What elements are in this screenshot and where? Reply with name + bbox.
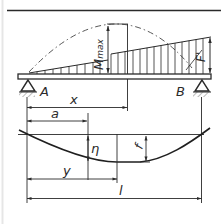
- support-a-label: A: [39, 84, 49, 99]
- mmax-label: Mmax: [91, 38, 106, 70]
- support-a: [19, 80, 37, 97]
- support-b-label: B: [176, 84, 185, 99]
- eta-label: η: [91, 141, 99, 156]
- f-label: f: [132, 141, 147, 151]
- beam-diagram: Mmax F' A B x a: [0, 0, 221, 224]
- x-label: x: [69, 92, 78, 107]
- moment-parabola: [29, 24, 192, 72]
- deflection-curve: [19, 128, 210, 162]
- y-label: y: [62, 163, 71, 178]
- force-label: F': [194, 52, 208, 62]
- support-b: [193, 80, 211, 97]
- span-label: l: [119, 183, 123, 198]
- beam-diagram-svg: Mmax F' A B x a: [0, 0, 221, 224]
- a-label: a: [51, 106, 59, 121]
- beam: [18, 74, 211, 79]
